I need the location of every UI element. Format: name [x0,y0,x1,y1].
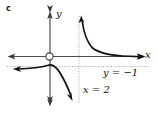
curve-right-branch [82,22,140,57]
curve-left-branch [18,65,71,95]
x-axis-label: x [145,50,151,60]
horizontal-asymptote-label: y = −1 [103,68,138,78]
coordinate-plane-svg [0,0,157,113]
vertical-asymptote-label: x = 2 [83,85,110,95]
graph-figure: c [0,0,157,113]
y-axis-label: y [56,9,62,19]
origin-marker-icon [46,53,53,60]
